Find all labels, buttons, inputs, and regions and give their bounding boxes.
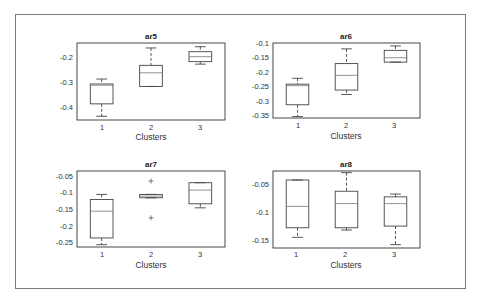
y-tick-label: -0.2 xyxy=(60,53,73,62)
y-tick-label: -0.1 xyxy=(60,188,73,197)
x-tick-label: 1 xyxy=(296,121,300,130)
x-tick-label: 3 xyxy=(198,123,202,132)
x-tick-label: 1 xyxy=(100,123,104,132)
y-tick-label: -0.15 xyxy=(56,205,73,214)
x-axis-label: Clusters xyxy=(330,260,361,270)
x-tick-label: 1 xyxy=(294,250,298,259)
panel-ar6: ar6 -0.1 -0.15 -0.2 -0.25 -0.3 -0.35 1 2… xyxy=(252,32,420,141)
y-tick-label: -0.4 xyxy=(60,103,73,112)
x-tick-label: 2 xyxy=(343,250,347,259)
iqr-box xyxy=(90,84,113,104)
x-tick-label: 2 xyxy=(149,123,153,132)
panel-title: ar5 xyxy=(145,32,158,41)
panel-title: ar8 xyxy=(340,160,353,169)
y-tick-label: -0.3 xyxy=(256,97,269,106)
y-tick-label: -0.25 xyxy=(56,238,73,247)
panel-ar7: ar7 -0.05 -0.1 -0.15 -0.2 -0.25 1 2 3 Cl… xyxy=(56,160,225,270)
x-tick-label: 3 xyxy=(392,121,396,130)
iqr-box xyxy=(286,180,309,228)
y-tick-label: -0.1 xyxy=(256,39,269,48)
panel-title: ar7 xyxy=(145,160,158,169)
box-group xyxy=(286,173,407,245)
box-group xyxy=(90,47,211,117)
x-tick-label: 2 xyxy=(149,250,153,259)
iqr-box xyxy=(90,199,113,238)
y-tick-label: -0.35 xyxy=(252,111,269,120)
x-tick-label: 3 xyxy=(198,250,202,259)
x-axis-label: Clusters xyxy=(135,260,166,270)
y-tick-label: -0.2 xyxy=(256,68,269,77)
x-tick-label: 2 xyxy=(344,121,348,130)
box-group xyxy=(90,179,211,245)
iqr-box xyxy=(189,183,212,204)
panel-title: ar6 xyxy=(340,32,353,41)
y-tick-label: -0.15 xyxy=(252,236,269,245)
x-tick-label: 3 xyxy=(392,250,396,259)
x-tick-label: 1 xyxy=(100,250,104,259)
y-tick-label: -0.1 xyxy=(256,208,269,217)
iqr-box xyxy=(335,191,358,228)
y-tick-label: -0.05 xyxy=(252,180,269,189)
x-axis-label: Clusters xyxy=(330,131,361,141)
box-group xyxy=(286,46,407,117)
panel-ar5: ar5 -0.2 -0.3 -0.4 1 2 3 Clusters xyxy=(60,32,225,142)
iqr-box xyxy=(286,84,309,105)
y-tick-label: -0.3 xyxy=(60,78,73,87)
iqr-box xyxy=(384,50,407,62)
iqr-box xyxy=(140,65,163,86)
boxplot-figure: ar5 -0.2 -0.3 -0.4 1 2 3 Clusters ar6 -0… xyxy=(0,0,479,303)
x-axis-label: Clusters xyxy=(135,132,166,142)
y-tick-label: -0.15 xyxy=(252,53,269,62)
axes-box xyxy=(273,171,420,248)
iqr-box xyxy=(384,197,407,226)
y-tick-label: -0.05 xyxy=(56,172,73,181)
y-tick-label: -0.2 xyxy=(60,222,73,231)
y-tick-label: -0.25 xyxy=(252,82,269,91)
iqr-box xyxy=(335,64,358,90)
panel-ar8: ar8 -0.05 -0.1 -0.15 1 2 3 Clusters xyxy=(252,160,420,270)
